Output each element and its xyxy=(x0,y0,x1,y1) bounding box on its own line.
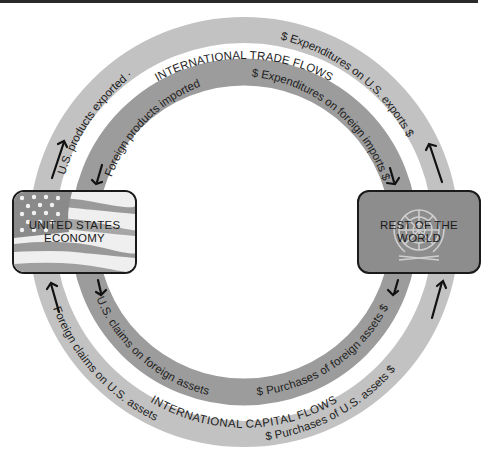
us-label-line2: ECONOMY xyxy=(29,232,121,245)
world-label-line1: REST OF THE xyxy=(380,219,458,232)
node-united-states-economy: UNITED STATES ECONOMY xyxy=(12,190,137,274)
world-label-line2: WORLD xyxy=(380,232,458,245)
world-label: REST OF THE WORLD xyxy=(380,219,458,245)
node-rest-of-the-world: REST OF THE WORLD xyxy=(357,190,481,274)
us-economy-label: UNITED STATES ECONOMY xyxy=(29,219,121,245)
us-label-line1: UNITED STATES xyxy=(29,219,121,232)
